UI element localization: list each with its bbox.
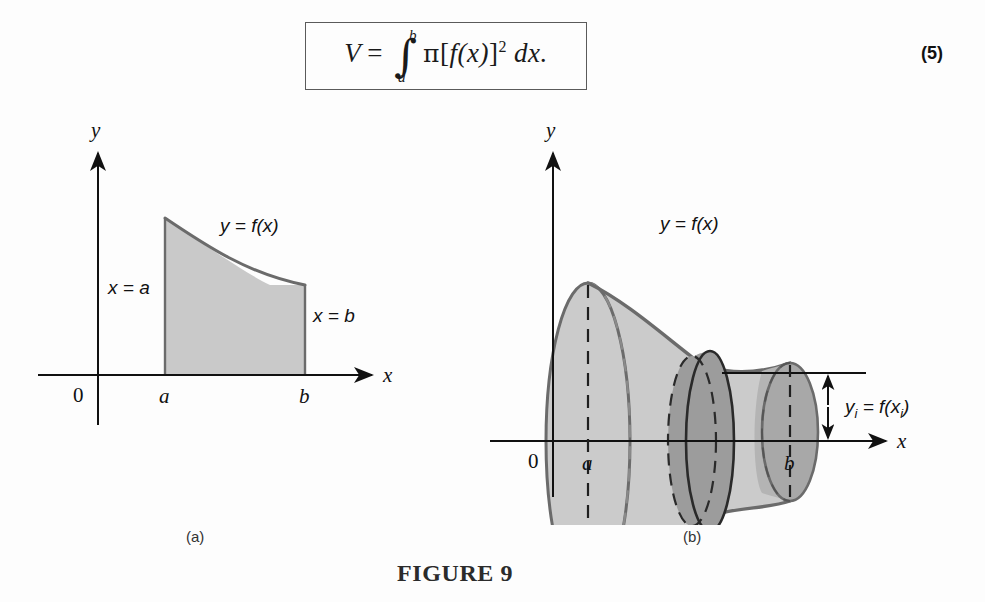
equation-lhs: V — [344, 38, 361, 68]
exponent: 2 — [498, 38, 507, 55]
representative-disk — [668, 351, 734, 525]
equation-equals-sign: = — [361, 38, 389, 68]
panel-a-tick-label-b: b — [299, 384, 310, 408]
integral-upper-limit: b — [409, 28, 417, 42]
panel-a-y-axis-label: y — [89, 118, 101, 142]
panel-a-right-boundary-label: x = b — [312, 305, 355, 326]
panel-b-x-axis-label: x — [896, 429, 907, 453]
panel-b-origin-label: 0 — [528, 449, 539, 473]
panel-a-origin-label: 0 — [73, 383, 84, 407]
region-under-curve — [165, 218, 305, 375]
equation-formula: V=b∫aπ[f(x)]2dx. — [344, 28, 547, 83]
panel-b-radius-label: yi = f(xi) — [843, 396, 909, 421]
panel-b-tick-label-a: a — [582, 451, 593, 475]
figure-graphic: y x 0 a b y = f(x) x = a x = b — [0, 105, 985, 525]
integral-lower-limit: a — [398, 70, 406, 84]
panel-a-x-axis-label: x — [382, 363, 393, 387]
panel-a-curve-label: y = f(x) — [218, 215, 279, 236]
integral-glyph: ∫ — [394, 42, 417, 69]
radius-label-equals-f-x: = f(x — [857, 396, 901, 417]
equation-box: V=b∫aπ[f(x)]2dx. — [305, 22, 587, 90]
panel-b-curve-label: y = f(x) — [658, 213, 719, 234]
panel-b-y-axis-label: y — [544, 118, 556, 142]
panel-a-caption: (a) — [186, 528, 204, 545]
equation-content: V=b∫aπ[f(x)]2dx. — [306, 23, 586, 89]
page-canvas: V=b∫aπ[f(x)]2dx. (5) — [0, 0, 985, 602]
differential: dx. — [507, 38, 548, 68]
panel-b-tick-label-b: b — [784, 451, 795, 475]
panel-a-graphic: y x 0 a b y = f(x) x = a x = b — [38, 118, 393, 425]
pi-symbol: π — [423, 39, 440, 68]
panel-b-caption: (b) — [683, 528, 701, 545]
radius-label-close-paren: ) — [901, 396, 909, 417]
function-expression: f(x) — [449, 38, 488, 68]
figure-title: FIGURE 9 — [397, 560, 513, 587]
panel-a-tick-label-a: a — [159, 384, 170, 408]
panel-a-left-boundary-label: x = a — [107, 277, 150, 298]
equation-number: (5) — [921, 43, 943, 64]
panel-b-graphic: y x 0 a b y = f(x) yi = f(xi) Δxi — [490, 118, 909, 525]
integral-symbol-group: b∫a — [391, 28, 421, 83]
